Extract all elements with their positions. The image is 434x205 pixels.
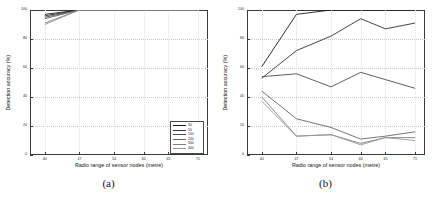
x-tick-mark [296, 152, 297, 155]
line-series-group-b [247, 10, 425, 155]
y-tick-mark [247, 97, 250, 98]
x-axis-label-a: Radio range of sensor nodes (metre) [30, 163, 208, 168]
y-tick-label: 20 [240, 124, 244, 128]
y-tick-label: 60 [240, 66, 244, 70]
y-tick-mark [30, 10, 33, 11]
legend-line-swatch [173, 130, 186, 131]
y-tick-mark [247, 10, 250, 11]
y-tick-label: 100 [238, 8, 244, 12]
series-line-300 [262, 97, 415, 143]
x-axis-label-b: Radio range of sensor nodes (metre) [247, 163, 425, 168]
x-tick-mark [415, 152, 416, 155]
x-tick-mark [45, 152, 46, 155]
y-tick-label: 60 [23, 66, 27, 70]
y-tick-mark [30, 155, 33, 156]
y-tick-mark [247, 126, 250, 127]
x-tick-mark [385, 152, 386, 155]
legend-line-swatch [173, 148, 186, 149]
series-line-30 [262, 10, 415, 67]
y-tick-label: 0 [25, 153, 27, 157]
legend-label: 30 [188, 124, 192, 127]
x-tick-label: 71 [196, 158, 200, 162]
x-tick-mark [361, 152, 362, 155]
y-tick-label: 0 [242, 153, 244, 157]
legend-line-swatch [173, 139, 186, 140]
x-tick-label: 65 [383, 158, 387, 162]
y-tick-label: 80 [240, 37, 244, 41]
figure-container: Detection accuracy (%) 02040608010040475… [0, 0, 434, 205]
y-tick-label: 40 [23, 95, 27, 99]
y-tick-mark [30, 68, 33, 69]
y-tick-label: 80 [23, 37, 27, 41]
x-tick-mark [144, 152, 145, 155]
legend-a: 3050100200300400 [170, 121, 204, 154]
chart-panel-a: Detection accuracy (%) 02040608010040475… [0, 0, 217, 205]
panel-caption-a: (a) [0, 178, 217, 189]
plot-area-b: 020406080100404754606571 [247, 10, 425, 155]
y-tick-mark [247, 68, 250, 69]
x-tick-mark [331, 152, 332, 155]
y-tick-label: 100 [21, 8, 27, 12]
panel-caption-b: (b) [217, 178, 434, 189]
y-tick-label: 40 [240, 95, 244, 99]
x-tick-label: 40 [43, 158, 47, 162]
x-tick-mark [262, 152, 263, 155]
y-tick-mark [247, 39, 250, 40]
y-axis-label-b: Detection accuracy (%) [221, 10, 231, 155]
legend-label: 400 [188, 147, 194, 150]
x-tick-label: 71 [413, 158, 417, 162]
y-tick-mark [30, 97, 33, 98]
y-tick-mark [247, 155, 250, 156]
y-tick-label: 20 [23, 124, 27, 128]
y-tick-mark [30, 39, 33, 40]
y-tick-mark [30, 126, 33, 127]
x-tick-mark [114, 152, 115, 155]
x-tick-label: 40 [260, 158, 264, 162]
y-axis-label-a: Detection accuracy (%) [4, 10, 14, 155]
series-line-50 [262, 19, 415, 78]
chart-panel-b: Detection accuracy (%) 02040608010040475… [217, 0, 434, 205]
legend-line-swatch [173, 144, 186, 145]
series-line-200 [262, 91, 415, 139]
x-tick-mark [79, 152, 80, 155]
legend-line-swatch [173, 125, 186, 126]
legend-line-swatch [173, 134, 186, 135]
x-tick-label: 65 [166, 158, 170, 162]
legend-row: 400 [173, 146, 201, 151]
series-line-100 [262, 72, 415, 88]
